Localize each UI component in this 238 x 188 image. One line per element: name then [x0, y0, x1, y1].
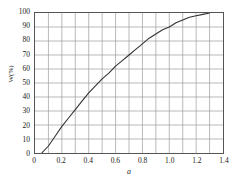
y-tick-label: 30 — [23, 107, 31, 115]
y-tick-label: 20 — [23, 122, 31, 130]
y-tick-label: 90 — [23, 22, 31, 30]
x-axis-title: a — [34, 167, 224, 176]
series-line-w-vs-a — [42, 13, 210, 153]
plot-area — [34, 12, 224, 154]
y-tick-label: 10 — [23, 136, 31, 144]
y-tick-label: 60 — [23, 65, 31, 73]
y-tick-label: 80 — [23, 36, 31, 44]
x-tick-label: 0.6 — [111, 156, 120, 165]
y-axis-title: W(%) — [7, 54, 15, 94]
y-tick-label: 100 — [19, 8, 30, 16]
x-tick-label: 0.2 — [56, 156, 65, 165]
y-tick-label: 40 — [23, 93, 31, 101]
x-tick-label: 0 — [32, 156, 36, 165]
x-tick-label: 1.2 — [192, 156, 201, 165]
x-tick-label: 1.4 — [219, 156, 228, 165]
x-tick-label: 0.8 — [138, 156, 147, 165]
y-axis-tick-labels: 0102030405060708090100 — [0, 12, 32, 154]
data-curve — [35, 13, 223, 153]
x-tick-label: 1.0 — [165, 156, 174, 165]
y-tick-label: 0 — [26, 150, 30, 158]
chart-figure: 0102030405060708090100 00.20.40.60.81.01… — [0, 0, 238, 188]
y-tick-label: 50 — [23, 79, 31, 87]
y-tick-label: 70 — [23, 51, 31, 59]
x-tick-label: 0.4 — [84, 156, 93, 165]
